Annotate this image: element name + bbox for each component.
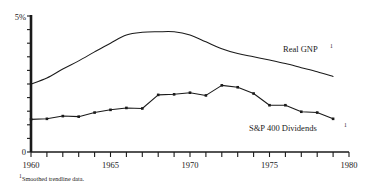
data-point-marker — [77, 115, 80, 118]
data-point-marker — [62, 115, 65, 118]
y-axis-max-label: 5% — [15, 12, 26, 22]
data-point-marker — [173, 93, 176, 96]
series-label-real-gnp-footnote-marker: 1 — [330, 43, 333, 49]
data-point-marker — [316, 111, 319, 114]
footnote: 1 Smoothed trendline data. — [19, 173, 84, 182]
data-point-marker — [157, 94, 160, 97]
data-point-marker — [284, 104, 287, 107]
x-axis-tick-label: 1980 — [341, 160, 358, 170]
data-point-marker — [236, 86, 239, 89]
data-point-marker — [205, 94, 208, 97]
y-axis-min-label: 0 — [22, 147, 26, 157]
x-axis-tick-label: 1970 — [182, 160, 199, 170]
footnote-text: Smoothed trendline data. — [22, 175, 84, 182]
data-point-marker — [268, 104, 271, 107]
x-axis-tick-label: 1975 — [261, 160, 278, 170]
data-point-marker — [93, 111, 96, 114]
chart-figure: 5% 0 19601965197019751980 Real GNP 1 S&P… — [0, 0, 371, 194]
x-axis-tick-label: 1965 — [102, 160, 119, 170]
data-point-marker — [46, 118, 49, 121]
series-label-real-gnp-text: Real GNP — [283, 44, 318, 54]
data-point-marker — [221, 84, 224, 87]
data-point-marker — [125, 107, 128, 110]
data-point-marker — [30, 118, 33, 121]
series-label-sp400-text: S&P 400 Dividends — [249, 123, 317, 133]
x-axis-ticks — [31, 152, 349, 157]
data-point-marker — [189, 91, 192, 94]
data-point-marker — [252, 92, 255, 95]
data-point-marker — [141, 107, 144, 110]
data-point-marker — [332, 118, 335, 121]
series-label-sp400-footnote-marker: 1 — [344, 122, 347, 128]
x-axis-tick-label: 1960 — [23, 160, 40, 170]
data-point-marker — [300, 110, 303, 113]
line-chart: 5% 0 19601965197019751980 Real GNP 1 S&P… — [0, 0, 371, 194]
data-point-marker — [109, 109, 112, 112]
